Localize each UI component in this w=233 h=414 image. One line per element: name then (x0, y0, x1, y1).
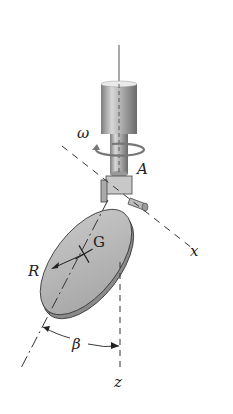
z-axis-label: z (114, 375, 122, 390)
x-axis-label: x (190, 244, 198, 259)
beta-angle-arc (43, 326, 119, 349)
diagram-canvas (0, 0, 233, 414)
radius-r-label: R (28, 264, 39, 279)
beta-label: β (72, 337, 81, 352)
hinge-bracket (101, 176, 148, 211)
omega-label: ω (77, 126, 89, 141)
point-a-label: A (137, 162, 148, 177)
disc (21, 193, 152, 334)
center-g-label: G (93, 235, 105, 250)
